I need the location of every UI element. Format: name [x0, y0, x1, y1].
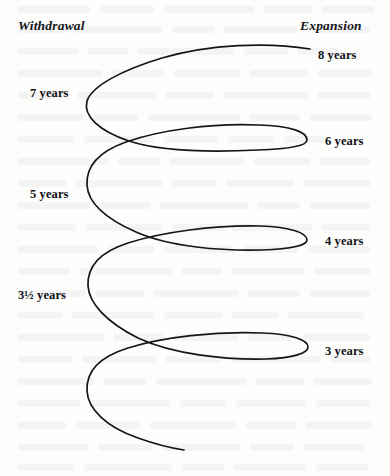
- axis-label-expansion: Expansion: [300, 18, 362, 34]
- axis-label-withdrawal: Withdrawal: [18, 18, 85, 34]
- year-label-y5: 5 years: [30, 187, 69, 202]
- diagram-page: Withdrawal Expansion 8 years7 years6 yea…: [0, 0, 390, 476]
- year-label-y3: 3 years: [325, 344, 364, 359]
- spiral-curve-path: [86, 45, 310, 450]
- year-label-y7: 7 years: [30, 86, 69, 101]
- year-label-y8: 8 years: [318, 48, 357, 63]
- year-label-y3half: 3½ years: [18, 288, 66, 303]
- year-label-y4: 4 years: [325, 234, 364, 249]
- year-label-y6: 6 years: [325, 134, 364, 149]
